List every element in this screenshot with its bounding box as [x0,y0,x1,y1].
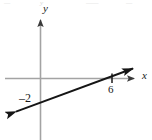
graph-canvas [0,0,152,140]
x-intercept-label: 6 [108,84,114,95]
y-axis-label: y [43,3,48,14]
plotted-line [16,69,133,112]
graph-figure: — y —— — y x 6 –2 [0,0,152,140]
x-axis-label: x [142,70,147,81]
y-intercept-label: –2 [19,92,31,104]
